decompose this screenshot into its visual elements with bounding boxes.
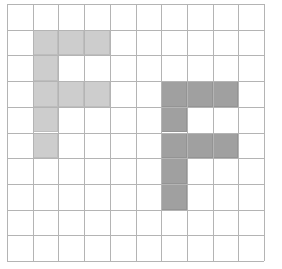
lattice-grid — [7, 4, 264, 261]
figure-canvas — [0, 0, 282, 269]
grid-line-vertical — [161, 4, 162, 261]
grid-line-vertical — [110, 4, 111, 261]
grid-line-vertical — [136, 4, 137, 261]
grid-line-vertical — [58, 4, 59, 261]
grid-line-vertical — [84, 4, 85, 261]
grid-line-vertical — [187, 4, 188, 261]
grid-line-vertical — [213, 4, 214, 261]
grid-line-vertical — [238, 4, 239, 261]
grid-line-layer — [7, 4, 264, 261]
grid-line-vertical — [7, 4, 8, 261]
grid-line-vertical — [33, 4, 34, 261]
grid-line-vertical — [264, 4, 265, 261]
grid-line-horizontal — [7, 261, 264, 262]
